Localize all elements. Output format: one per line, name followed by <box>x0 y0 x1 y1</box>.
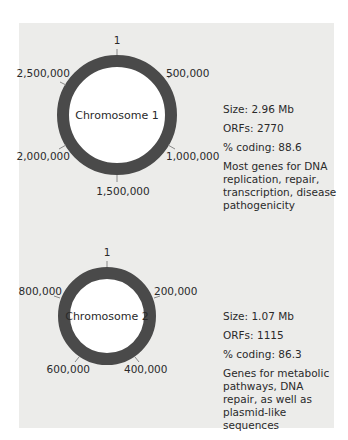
gene-description: Most genes for DNA replication, repair, … <box>223 160 338 212</box>
size-stat: Size: 1.07 Mb <box>223 310 338 323</box>
tick-label: 500,000 <box>166 67 209 79</box>
chromosome-1-map: 1 500,000 1,000,000 1,500,000 2,000,000 … <box>17 34 220 197</box>
tick-label: 2,000,000 <box>17 150 70 162</box>
chromosome-1-title: Chromosome 1 <box>75 109 159 122</box>
coding-stat: % coding: 86.3 <box>223 348 338 361</box>
gene-description: Genes for metabolic pathways, DNA repair… <box>223 367 338 432</box>
chromosome-2-info: Size: 1.07 Mb ORFs: 1115 % coding: 86.3 … <box>223 310 338 432</box>
size-stat: Size: 2.96 Mb <box>223 103 338 116</box>
coding-stat: % coding: 88.6 <box>223 141 338 154</box>
tick-label: 1,500,000 <box>96 185 149 197</box>
orfs-stat: ORFs: 2770 <box>223 122 338 135</box>
tick-label: 800,000 <box>19 285 62 297</box>
tick-label: 200,000 <box>154 285 197 297</box>
tick-label: 600,000 <box>47 363 90 375</box>
tick-label: 2,500,000 <box>17 67 70 79</box>
chromosome-2-map: 1 200,000 400,000 600,000 800,000 Chromo… <box>19 246 198 375</box>
chromosome-1-info: Size: 2.96 Mb ORFs: 2770 % coding: 88.6 … <box>223 103 338 212</box>
tick-label: 1 <box>104 246 111 258</box>
chromosome-2-title: Chromosome 2 <box>65 310 149 323</box>
orfs-stat: ORFs: 1115 <box>223 329 338 342</box>
tick-label: 400,000 <box>124 363 167 375</box>
tick-label: 1 <box>114 34 121 46</box>
tick-label: 1,000,000 <box>166 150 219 162</box>
